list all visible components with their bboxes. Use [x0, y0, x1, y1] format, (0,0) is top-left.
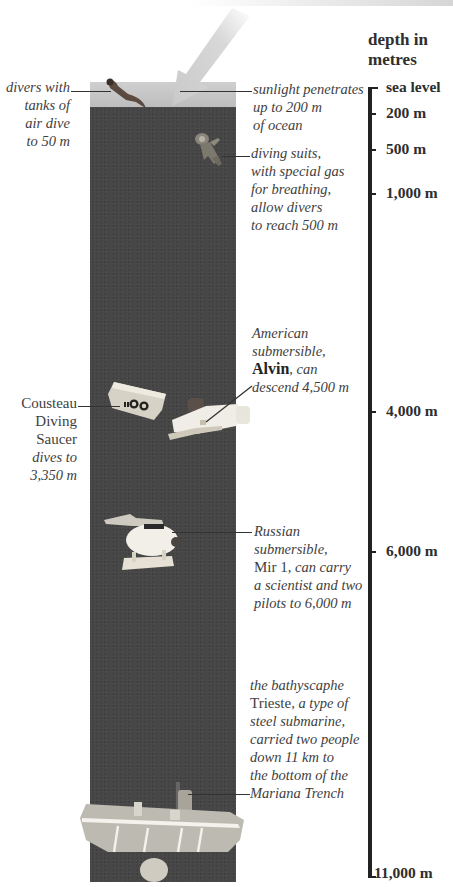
scuba-diver-icon — [100, 76, 160, 116]
ocean-depth-column — [90, 82, 236, 882]
trieste-line-7: Mariana Trench — [250, 784, 370, 802]
alvin-annotation: American submersible, Alvin, can descend… — [252, 324, 372, 396]
sunlight-annotation: sunlight penetrates up to 200 m of ocean — [253, 80, 373, 134]
cousteau-depth-line-2: 3,350 m — [0, 466, 77, 484]
alvin-name: Alvin — [252, 360, 289, 377]
trieste-line-6: the bottom of the — [250, 766, 370, 784]
scuba-line-1: divers with — [0, 78, 70, 96]
trieste-line-2: Trieste, a type of — [250, 694, 370, 712]
trieste-leader-line — [188, 794, 250, 795]
sunlight-leader-line — [180, 91, 252, 92]
diving-suits-line-3: for breathing, — [251, 180, 371, 198]
depth-scale-title-line-1: depth in — [368, 30, 428, 50]
mir-line-2: submersible, — [254, 540, 374, 558]
trieste-annotation: the bathyscaphe Trieste, a type of steel… — [250, 676, 370, 802]
trieste-line-1: the bathyscaphe — [250, 676, 370, 694]
depth-scale-title: depth in metres — [368, 30, 428, 70]
tick-4000m — [368, 411, 376, 413]
diving-suits-line-5: to reach 500 m — [251, 216, 371, 234]
mir-leader-line — [172, 532, 252, 533]
mir-line-3-rest: , can carry — [288, 559, 351, 575]
trieste-bathyscaphe-icon — [78, 780, 258, 885]
tick-200m — [368, 113, 376, 115]
alvin-line-2: submersible, — [252, 342, 372, 360]
trieste-line-3: steel submarine, — [250, 712, 370, 730]
diving-suits-annotation: diving suits, with special gas for breat… — [251, 144, 371, 234]
alvin-line-3: Alvin, can — [252, 360, 372, 378]
depth-axis — [368, 88, 372, 878]
mir-line-5: pilots to 6,000 m — [254, 594, 374, 612]
cousteau-depth-line-1: dives to — [0, 448, 77, 466]
mir-line-1: Russian — [254, 522, 374, 540]
cousteau-name-line-2: Diving — [0, 412, 77, 430]
tick-label-1000m: 1,000 m — [386, 184, 438, 202]
atmospheric-diving-suit-icon — [190, 130, 230, 170]
alvin-leader-line — [200, 384, 260, 434]
tick-label-200m: 200 m — [386, 104, 426, 122]
tick-6000m — [368, 551, 376, 553]
tick-label-11000m: 11,000 m — [374, 864, 433, 882]
cousteau-annotation: Cousteau Diving Saucer dives to 3,350 m — [0, 394, 77, 484]
tick-label-4000m: 4,000 m — [386, 402, 438, 420]
mir-name: Mir 1 — [254, 559, 288, 575]
scuba-leader-line — [71, 91, 111, 92]
trieste-name: Trieste — [250, 695, 291, 711]
cousteau-name-line-1: Cousteau — [0, 394, 77, 412]
mir-line-4: a scientist and two — [254, 576, 374, 594]
alvin-line-3-rest: , can — [289, 361, 317, 377]
trieste-line-4: carried two people — [250, 730, 370, 748]
scuba-annotation: divers with tanks of air dive to 50 m — [0, 78, 70, 150]
mir-line-3: Mir 1, can carry — [254, 558, 374, 576]
mir-annotation: Russian submersible, Mir 1, can carry a … — [254, 522, 374, 612]
tick-sea-level — [368, 87, 378, 89]
sunlight-line-1: sunlight penetrates — [253, 80, 373, 98]
tick-label-sea-level: sea level — [386, 78, 441, 96]
diving-suits-leader-line — [222, 156, 250, 157]
cousteau-diving-saucer-icon — [104, 380, 174, 420]
sunlight-line-3: of ocean — [253, 116, 373, 134]
scuba-line-2: tanks of — [0, 96, 70, 114]
tick-500m — [368, 149, 376, 151]
mir-1-submersible-icon — [102, 510, 192, 580]
cousteau-leader-line — [78, 406, 120, 407]
tick-label-6000m: 6,000 m — [386, 542, 438, 560]
alvin-line-4: descend 4,500 m — [252, 378, 372, 396]
cousteau-name-line-3: Saucer — [0, 430, 77, 448]
sunlight-line-2: up to 200 m — [253, 98, 373, 116]
diving-suits-line-2: with special gas — [251, 162, 371, 180]
diving-suits-line-1: diving suits, — [251, 144, 371, 162]
diving-suits-line-4: allow divers — [251, 198, 371, 216]
scuba-line-3: air dive — [0, 114, 70, 132]
trieste-line-5: down 11 km to — [250, 748, 370, 766]
trieste-line-2-rest: , a type of — [291, 695, 348, 711]
tick-1000m — [368, 193, 376, 195]
scuba-line-4: to 50 m — [0, 132, 70, 150]
depth-scale-title-line-2: metres — [368, 50, 428, 70]
alvin-line-1: American — [252, 324, 372, 342]
tick-label-500m: 500 m — [386, 140, 426, 158]
